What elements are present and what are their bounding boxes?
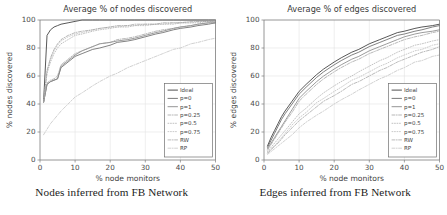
edges-chart-svg: Average % of edges discovered01020304050… xyxy=(224,0,447,185)
y-tick-label: 40 xyxy=(26,99,36,108)
nodes-chart-svg: Average % of nodes discovered01020304050… xyxy=(0,0,224,185)
y-tick-label: 80 xyxy=(250,43,260,52)
legend[interactable]: Idealp=0p=1p=0.25p=0.5p=0.75RWRP xyxy=(388,84,436,157)
y-tick-label: 20 xyxy=(250,127,260,136)
y-axis-label: % edges discovered xyxy=(229,52,238,128)
legend-label-RP: RP xyxy=(404,145,412,151)
caption-nodes: Nodes inferred from FB Network xyxy=(0,186,224,198)
legend-label-p-0: p=0 xyxy=(180,95,192,102)
chart-nodes: Average % of nodes discovered01020304050… xyxy=(0,0,224,185)
x-tick-label: 50 xyxy=(434,163,444,172)
chart-title: Average % of nodes discovered xyxy=(63,4,192,14)
legend-label-p-1: p=1 xyxy=(180,104,192,111)
legend-label-p-0-25: p=0.25 xyxy=(404,112,425,119)
y-tick-label: 100 xyxy=(22,15,36,24)
legend-label-RP: RP xyxy=(180,145,188,151)
y-tick-label: 0 xyxy=(31,155,36,164)
panel-nodes: Average % of nodes discovered01020304050… xyxy=(0,0,224,215)
x-axis-label: % node monitors xyxy=(95,174,160,183)
legend-label-p-0-5: p=0.5 xyxy=(404,120,421,127)
panel-edges: Average % of edges discovered01020304050… xyxy=(224,0,447,215)
y-axis-label: % nodes discovered xyxy=(5,52,14,128)
legend-label-p-0-75: p=0.75 xyxy=(180,129,201,136)
legend-label-p-0: p=0 xyxy=(404,95,416,102)
caption-edges: Edges inferred from FB Network xyxy=(224,186,447,198)
y-tick-label: 20 xyxy=(26,127,36,136)
x-tick-label: 20 xyxy=(329,163,339,172)
figure-row: Average % of nodes discovered01020304050… xyxy=(0,0,447,215)
chart-edges: Average % of edges discovered01020304050… xyxy=(224,0,447,185)
x-tick-label: 40 xyxy=(176,163,186,172)
legend-label-p-0-5: p=0.5 xyxy=(180,120,197,127)
y-tick-label: 40 xyxy=(250,99,260,108)
legend-label-p-0-75: p=0.75 xyxy=(404,129,425,136)
legend-label-p-1: p=1 xyxy=(404,104,416,111)
legend-label-p-0-25: p=0.25 xyxy=(180,112,201,119)
legend-label-RW: RW xyxy=(404,137,414,143)
legend[interactable]: Idealp=0p=1p=0.25p=0.5p=0.75RWRP xyxy=(165,84,213,157)
chart-title: Average % of edges discovered xyxy=(287,4,416,14)
y-tick-label: 0 xyxy=(254,155,259,164)
x-tick-label: 30 xyxy=(141,163,151,172)
x-tick-label: 10 xyxy=(294,163,304,172)
x-tick-label: 20 xyxy=(106,163,116,172)
x-tick-label: 40 xyxy=(399,163,409,172)
x-tick-label: 0 xyxy=(38,163,43,172)
y-tick-label: 60 xyxy=(26,71,36,80)
x-axis-label: % node monitors xyxy=(319,174,384,183)
y-tick-label: 80 xyxy=(26,43,36,52)
x-tick-label: 0 xyxy=(261,163,266,172)
x-tick-label: 30 xyxy=(364,163,374,172)
y-tick-label: 100 xyxy=(245,15,259,24)
legend-label-Ideal: Ideal xyxy=(404,87,418,93)
x-tick-label: 50 xyxy=(211,163,221,172)
legend-label-Ideal: Ideal xyxy=(180,87,194,93)
y-tick-label: 60 xyxy=(250,71,260,80)
legend-label-RW: RW xyxy=(180,137,190,143)
x-tick-label: 10 xyxy=(71,163,81,172)
